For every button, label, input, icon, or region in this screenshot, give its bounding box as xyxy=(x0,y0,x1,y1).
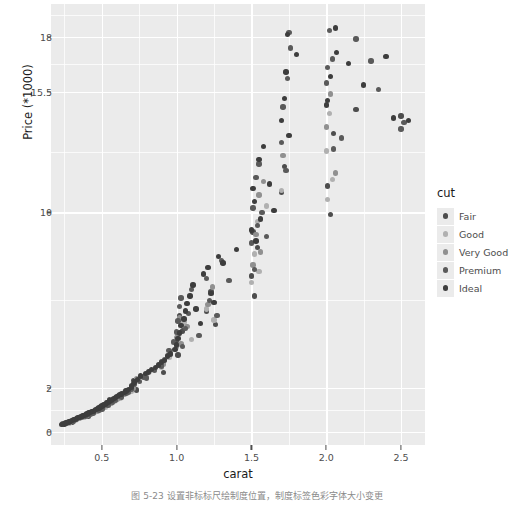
scatter-point xyxy=(252,251,257,256)
scatter-point xyxy=(328,74,333,79)
scatter-point xyxy=(280,104,285,109)
scatter-point xyxy=(226,278,231,283)
x-axis-title: carat xyxy=(51,467,425,481)
scatter-point xyxy=(327,111,332,116)
legend-key-swatch xyxy=(437,244,454,261)
scatter-point xyxy=(331,146,336,151)
scatter-point xyxy=(180,344,185,349)
scatter-point xyxy=(328,91,333,96)
gridline-major-vertical xyxy=(177,4,178,445)
gridline-major-horizontal xyxy=(51,388,425,389)
scatter-point xyxy=(346,61,351,66)
scatter-point xyxy=(234,247,239,252)
scatter-point xyxy=(330,177,335,182)
legend-item-label: Good xyxy=(459,229,484,240)
scatter-point xyxy=(283,69,288,74)
scatter-point xyxy=(253,232,258,237)
scatter-point xyxy=(391,115,396,120)
legend-item-fair[interactable]: Fair xyxy=(437,207,511,225)
y-axis-tick-mark xyxy=(47,212,52,213)
gridline-minor-vertical xyxy=(214,4,215,445)
scatter-point xyxy=(189,337,194,342)
gridline-major-vertical xyxy=(102,4,103,445)
scatter-point xyxy=(178,295,183,300)
scatter-point xyxy=(220,260,225,265)
x-axis-tick-label: 2.0 xyxy=(319,452,334,463)
scatter-point xyxy=(258,249,263,254)
scatter-point xyxy=(330,56,335,61)
legend-dot-icon xyxy=(443,231,448,236)
legend-item-label: Fair xyxy=(459,211,476,222)
gridline-major-horizontal xyxy=(51,92,425,93)
legend-items: FairGoodVery GoodPremiumIdeal xyxy=(437,207,511,297)
scatter-point xyxy=(201,271,206,276)
scatter-point xyxy=(324,124,329,129)
gridline-major-vertical xyxy=(326,4,327,445)
legend-item-very-good[interactable]: Very Good xyxy=(437,243,511,261)
gridline-minor-vertical xyxy=(289,4,290,445)
legend-item-good[interactable]: Good xyxy=(437,225,511,243)
scatter-point xyxy=(214,313,219,318)
scatter-point xyxy=(183,326,188,331)
y-axis-tick-mark xyxy=(47,91,52,92)
scatter-point xyxy=(181,316,186,321)
scatter-point xyxy=(177,304,182,309)
gridline-minor-vertical xyxy=(64,4,65,445)
scatter-point xyxy=(250,186,255,191)
scatter-point xyxy=(211,300,216,305)
scatter-point xyxy=(406,118,411,123)
gridline-minor-horizontal xyxy=(51,15,425,16)
scatter-point xyxy=(250,205,255,210)
scatter-point xyxy=(196,333,201,338)
scatter-point xyxy=(398,113,403,118)
scatter-point xyxy=(256,269,261,274)
scatter-point xyxy=(333,170,338,175)
scatter-point xyxy=(253,175,258,180)
legend-key-swatch xyxy=(437,226,454,243)
scatter-point xyxy=(333,25,338,30)
scatter-point xyxy=(178,323,183,328)
legend-item-ideal[interactable]: Ideal xyxy=(437,279,511,297)
scatter-point xyxy=(190,282,195,287)
scatter-point xyxy=(177,330,182,335)
scatter-point xyxy=(353,36,358,41)
figure-root: 021015.518 0.51.01.52.02.5 carat Price (… xyxy=(0,0,514,505)
scatter-point xyxy=(204,306,209,311)
gridline-major-horizontal xyxy=(51,37,425,38)
legend-title: cut xyxy=(437,186,511,200)
gridline-major-vertical xyxy=(401,4,402,445)
scatter-point xyxy=(324,80,329,85)
scatter-point xyxy=(264,203,269,208)
scatter-point xyxy=(184,301,189,306)
scatter-point xyxy=(249,273,254,278)
legend-key-swatch xyxy=(437,262,454,279)
scatter-point xyxy=(325,183,330,188)
scatter-point xyxy=(353,107,358,112)
x-axis-tick-mark xyxy=(326,445,327,450)
legend-item-label: Very Good xyxy=(459,247,508,258)
scatter-point xyxy=(175,352,180,357)
legend-item-premium[interactable]: Premium xyxy=(437,261,511,279)
scatter-point xyxy=(327,28,332,33)
legend-item-label: Ideal xyxy=(459,283,482,294)
legend-key-swatch xyxy=(437,208,454,225)
x-axis-tick-mark xyxy=(101,445,102,450)
x-axis-tick-mark xyxy=(176,445,177,450)
scatter-point xyxy=(325,98,330,103)
scatter-point xyxy=(249,227,254,232)
scatter-point xyxy=(398,126,403,131)
scatter-point xyxy=(261,144,266,149)
y-axis-tick-mark xyxy=(47,431,52,432)
gridline-major-horizontal xyxy=(51,212,425,213)
scatter-point xyxy=(331,131,336,136)
scatter-point xyxy=(280,153,285,158)
gridline-minor-horizontal xyxy=(51,64,425,65)
scatter-point xyxy=(267,181,272,186)
plot-panel xyxy=(51,4,425,445)
scatter-point xyxy=(208,291,213,296)
gridline-minor-horizontal xyxy=(51,300,425,301)
legend-item-label: Premium xyxy=(459,265,501,276)
y-axis-tick-mark xyxy=(47,387,52,388)
legend-dot-icon xyxy=(443,267,448,272)
scatter-point xyxy=(205,265,210,270)
